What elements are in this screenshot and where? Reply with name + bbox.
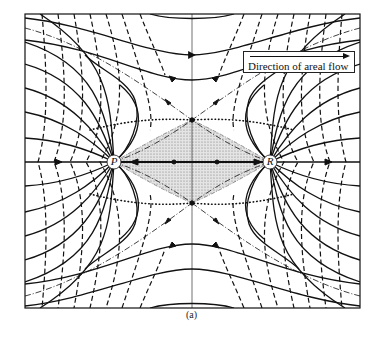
saddle-top [190, 118, 194, 122]
legend-box: Direction of areal flow [243, 51, 355, 73]
point-p-label: P [107, 155, 121, 167]
point-r-label: R [263, 155, 277, 167]
figure-caption: (a) [0, 309, 383, 320]
arrow-right-icon [250, 56, 348, 57]
legend-label: Direction of areal flow [248, 60, 348, 72]
saddle-bottom [190, 201, 194, 205]
